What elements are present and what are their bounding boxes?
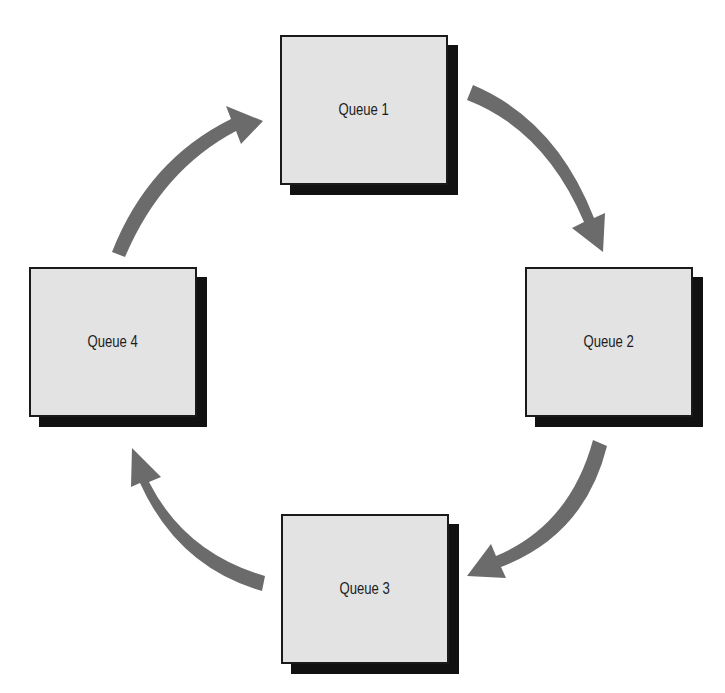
arrow-queue3-to-queue4-icon	[131, 448, 265, 591]
arrow-queue2-to-queue3-icon	[467, 440, 607, 578]
queue-2-label: Queue 2	[584, 333, 634, 351]
queue-cycle-diagram: Queue 1 Queue 2 Queue 3 Queue 4	[0, 0, 725, 693]
queue-1-label: Queue 1	[339, 101, 389, 119]
arrow-queue1-to-queue2-icon	[467, 85, 605, 252]
queue-3-box: Queue 3	[281, 514, 449, 664]
queue-3-label: Queue 3	[340, 580, 390, 598]
arrow-queue4-to-queue1-icon	[112, 106, 263, 257]
queue-1-box: Queue 1	[280, 35, 448, 185]
queue-4-box: Queue 4	[29, 267, 197, 417]
queue-2-box: Queue 2	[525, 267, 693, 417]
queue-4-label: Queue 4	[88, 333, 138, 351]
